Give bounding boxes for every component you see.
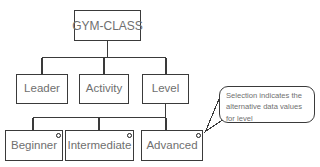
callout-line-3: for level (226, 113, 309, 124)
callout-line-2: alternative data values (226, 101, 309, 112)
node-level[interactable]: Level (142, 74, 189, 104)
node-intermediate[interactable]: Intermediate (65, 130, 134, 161)
node-leader-label: Leader (24, 83, 60, 95)
node-beginner-label: Beginner (11, 140, 57, 152)
node-level-label: Level (152, 83, 180, 95)
node-activity[interactable]: Activity (79, 74, 129, 104)
selection-handle-icon[interactable] (56, 133, 61, 138)
node-leader[interactable]: Leader (16, 74, 68, 104)
node-advanced[interactable]: Advanced (141, 130, 203, 161)
node-advanced-label: Advanced (146, 140, 197, 152)
node-gym-class[interactable]: GYM-CLASS (74, 10, 141, 41)
diagram-canvas: GYM-CLASS Leader Activity Level Beginner… (0, 0, 320, 167)
node-beginner[interactable]: Beginner (5, 130, 63, 161)
selection-handle-icon[interactable] (127, 133, 132, 138)
callout-balloon: Selection indicates the alternative data… (219, 86, 315, 123)
selection-handle-icon[interactable] (196, 133, 201, 138)
node-intermediate-label: Intermediate (68, 140, 132, 152)
node-gym-class-label: GYM-CLASS (72, 20, 143, 32)
node-activity-label: Activity (86, 83, 122, 95)
callout-line-1: Selection indicates the (226, 90, 309, 101)
